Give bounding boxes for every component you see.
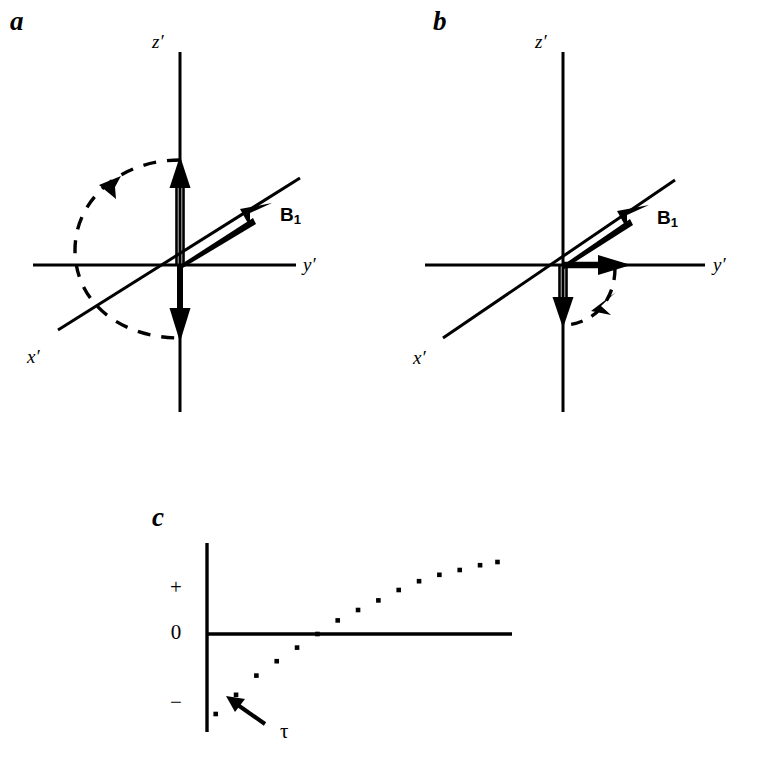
chart-data-point xyxy=(356,608,361,613)
panel-a-magnetization-down-vector xyxy=(170,265,191,342)
chart-ytick-plus: + xyxy=(163,577,189,598)
panel-a-b1-label-text: B xyxy=(280,204,294,225)
panel-a-b1-label-subscript: 1 xyxy=(294,212,301,227)
chart-ytick-zero: 0 xyxy=(163,622,189,643)
panel-b: b xyxy=(385,0,770,420)
panel-b-rotation-arc xyxy=(567,268,615,325)
panel-b-b1-label-text: B xyxy=(657,207,671,228)
chart-data-point xyxy=(437,573,442,578)
tau-symbol-label: τ xyxy=(280,721,288,742)
chart-data-point xyxy=(315,632,320,637)
chart-data-point xyxy=(417,579,422,584)
panel-c: c + 0 − τ xyxy=(0,420,770,763)
panel-a-y-axis-label: y′ xyxy=(303,255,316,274)
chart-data-point xyxy=(495,560,500,565)
panel-b-diagram xyxy=(385,0,770,420)
panel-b-arc-arrowhead xyxy=(591,292,616,315)
panel-b-z-axis-label: z′ xyxy=(535,32,547,51)
chart-data-point xyxy=(274,659,279,664)
panel-a-b1-vector xyxy=(180,203,272,269)
chart-data-point xyxy=(478,563,483,568)
figure-root: a xyxy=(0,0,770,763)
panel-a-arc-arrowhead xyxy=(99,176,121,199)
panel-b-b1-label: B1 xyxy=(657,208,678,227)
chart-data-point xyxy=(396,588,401,593)
chart-data-point xyxy=(213,712,218,717)
panel-a: a xyxy=(0,0,385,420)
chart-data-point xyxy=(295,645,300,650)
panel-a-x-axis-label: x′ xyxy=(27,347,40,366)
tau-annotation-arrow xyxy=(226,696,265,724)
chart-data-point xyxy=(376,598,381,603)
chart-data-point xyxy=(457,568,462,573)
panel-b-x-axis-label: x′ xyxy=(413,348,426,367)
panel-a-diagram xyxy=(0,0,385,420)
chart-data-point xyxy=(234,693,239,698)
panel-a-b1-label: B1 xyxy=(280,205,301,224)
chart-data-point xyxy=(335,618,340,623)
chart-ytick-minus: − xyxy=(163,692,189,713)
panel-b-y-axis-label: y′ xyxy=(713,255,726,274)
panel-c-chart xyxy=(0,420,770,763)
panel-a-rotation-arc xyxy=(75,160,180,338)
panel-b-b1-label-subscript: 1 xyxy=(671,215,678,230)
chart-data-points xyxy=(213,560,499,717)
chart-data-point xyxy=(254,673,259,678)
panel-a-z-axis-label: z′ xyxy=(152,32,164,51)
